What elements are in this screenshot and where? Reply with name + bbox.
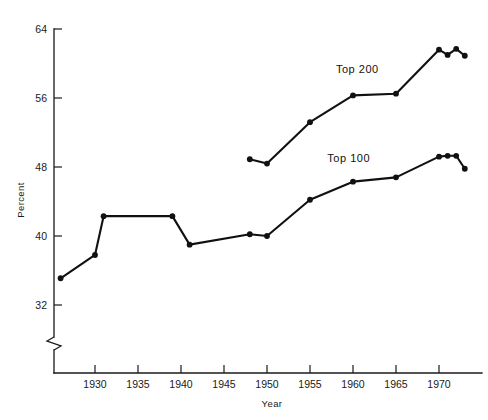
data-point-top-100-1965 <box>393 174 399 180</box>
data-point-top-100-1960 <box>350 179 356 185</box>
data-point-top-200-1973 <box>462 53 468 59</box>
data-point-top-100-1970 <box>436 154 442 160</box>
x-tick-label-1930: 1930 <box>83 378 107 390</box>
x-tick-label-1945: 1945 <box>212 378 236 390</box>
y-tick-label-32: 32 <box>35 299 47 311</box>
data-point-top-200-1955 <box>307 119 313 125</box>
data-point-top-100-1931 <box>101 213 107 219</box>
y-tick-label-48: 48 <box>35 161 47 173</box>
data-point-top-200-1965 <box>393 91 399 97</box>
data-point-top-200-1960 <box>350 93 356 99</box>
data-point-top-200-1950 <box>264 161 270 167</box>
x-tick-label-1935: 1935 <box>126 378 150 390</box>
data-point-top-200-1972 <box>453 46 459 52</box>
series-label-top-100: Top 100 <box>327 152 370 164</box>
data-point-top-100-1972 <box>453 153 459 159</box>
x-tick-label-1960: 1960 <box>341 378 365 390</box>
data-point-top-100-1971 <box>445 153 451 159</box>
data-point-top-100-1948 <box>247 231 253 237</box>
data-point-top-100-1973 <box>462 166 468 172</box>
data-point-top-200-1970 <box>436 47 442 53</box>
y-tick-label-40: 40 <box>35 230 47 242</box>
data-point-top-200-1971 <box>445 52 451 58</box>
y-axis-title: Percent <box>15 182 26 218</box>
data-point-top-100-1926 <box>58 275 64 281</box>
x-tick-label-1955: 1955 <box>298 378 322 390</box>
data-point-top-100-1955 <box>307 197 313 203</box>
x-axis-title: Year <box>262 398 283 409</box>
series-line-top-100 <box>61 156 465 278</box>
x-tick-label-1940: 1940 <box>169 378 193 390</box>
x-tick-label-1970: 1970 <box>427 378 451 390</box>
data-point-top-200-1948 <box>247 156 253 162</box>
data-point-top-100-1939 <box>170 213 176 219</box>
x-tick-label-1950: 1950 <box>255 378 279 390</box>
y-tick-label-56: 56 <box>35 92 47 104</box>
data-point-top-100-1930 <box>92 252 98 258</box>
series-label-top-200: Top 200 <box>336 63 379 75</box>
chart-figure: 3240485664193019351940194519501955196019… <box>0 0 488 420</box>
data-point-top-100-1941 <box>187 242 193 248</box>
x-tick-label-1965: 1965 <box>384 378 408 390</box>
data-point-top-100-1950 <box>264 233 270 239</box>
y-axis-break-icon <box>47 337 61 350</box>
y-tick-label-64: 64 <box>35 23 47 35</box>
line-chart-plot: 3240485664193019351940194519501955196019… <box>0 0 488 420</box>
